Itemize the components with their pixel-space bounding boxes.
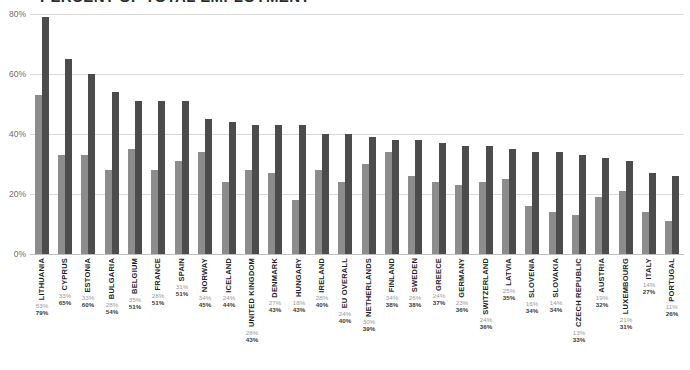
bar-group [474, 14, 497, 254]
bar-series-group [30, 14, 684, 254]
category-name: LITHUANIA [37, 258, 46, 300]
category-label-cell: 14%27%ITALY [637, 258, 660, 366]
category-label-cell: 33%65%CYPRUS [53, 258, 76, 366]
value-label-series-2: 79% [35, 309, 47, 316]
category-name: GREECE [434, 258, 443, 291]
category-name: PORTUGAL [668, 258, 677, 302]
category-name: SWITZERLAND [481, 258, 490, 315]
bar-series-1 [292, 200, 299, 254]
category-label-cell: 25%35%LATVIA [497, 258, 520, 366]
bar-series-1 [408, 176, 415, 254]
rotated-label: 35%51%BELGIUM [129, 258, 142, 310]
chart-container: PERCENT OF TOTAL EMPLOYMENT 0%20%40%60%8… [0, 0, 690, 370]
value-label-series-2: 37% [433, 300, 445, 307]
bar-series-1 [549, 212, 556, 254]
rotated-label: 34%45%NORWAY [199, 258, 212, 309]
bar-series-2 [626, 161, 633, 254]
rotated-label: 24%37%GREECE [432, 258, 445, 307]
value-label-pair: 33%65% [59, 293, 71, 306]
bar-group [591, 14, 614, 254]
bar-series-2 [42, 17, 49, 254]
rotated-label: 14%27%ITALY [642, 258, 655, 296]
rotated-label: 30%39%NETHERLANDS [362, 258, 375, 333]
value-label-pair: 28%54% [106, 302, 118, 315]
bar-series-1 [455, 185, 462, 254]
value-label-series-2: 38% [409, 301, 421, 308]
value-label-series-2: 43% [292, 306, 304, 313]
bar-series-2 [556, 152, 563, 254]
category-name: FINLAND [388, 258, 397, 292]
bar-series-1 [572, 215, 579, 254]
category-label-cell: 28%51%FRANCE [147, 258, 170, 366]
rotated-label: 53%79%LITHUANIA [35, 258, 48, 317]
bar-series-1 [338, 182, 345, 254]
category-label-cell: 27%43%DENMARK [264, 258, 287, 366]
y-axis-tick-label: 40% [9, 129, 26, 139]
rotated-label: 16%34%SLOVENIA [526, 258, 539, 314]
value-label-series-2: 65% [59, 300, 71, 307]
bar-group [30, 14, 53, 254]
value-label-series-2: 51% [176, 291, 188, 298]
y-axis-tick-label: 80% [9, 9, 26, 19]
bar-series-1 [268, 173, 275, 254]
value-label-pair: 21%31% [619, 317, 631, 330]
value-label-pair: 27%43% [269, 300, 281, 313]
plot-area: 0%20%40%60%80% [30, 14, 684, 254]
value-label-series-2: 54% [106, 308, 118, 315]
bar-group [170, 14, 193, 254]
bar-group [497, 14, 520, 254]
bar-series-1 [595, 197, 602, 254]
category-name: NETHERLANDS [364, 258, 373, 317]
value-label-series-2: 44% [222, 302, 234, 309]
bar-series-2 [439, 143, 446, 254]
bar-series-2 [112, 92, 119, 254]
category-label-cell: 30%39%NETHERLANDS [357, 258, 380, 366]
value-label-pair: 28%43% [246, 330, 258, 343]
category-label-cell: 34%38%FINLAND [380, 258, 403, 366]
category-label-cell: 24%37%GREECE [427, 258, 450, 366]
category-label-cell: 19%32%AUSTRIA [591, 258, 614, 366]
rotated-label: 24%40%EU OVERALL [339, 258, 352, 325]
bar-series-1 [362, 164, 369, 254]
value-label-pair: 14%34% [549, 300, 561, 313]
y-axis-tick-label: 60% [9, 69, 26, 79]
rotated-label: 23%36%GERMANY [456, 258, 469, 314]
rotated-label: 21%31%LUXEMBOURG [619, 258, 632, 331]
category-name: ESTONIA [84, 258, 93, 293]
value-label-pair: 53%79% [35, 303, 47, 316]
bar-series-2 [135, 101, 142, 254]
bar-group [334, 14, 357, 254]
category-label-cell: 35%51%BELGIUM [123, 258, 146, 366]
rotated-label: 14%34%SLOVAKIA [549, 258, 562, 314]
category-name: CZECH REPUBLIC [574, 258, 583, 327]
chart-title: PERCENT OF TOTAL EMPLOYMENT [40, 0, 310, 2]
bar-group [661, 14, 684, 254]
value-label-pair: 13%33% [573, 330, 585, 343]
bar-series-1 [245, 170, 252, 254]
value-label-pair: 35%51% [129, 297, 141, 310]
value-label-pair: 33%60% [82, 295, 94, 308]
bar-group [264, 14, 287, 254]
value-label-series-2: 38% [386, 302, 398, 309]
value-label-series-2: 39% [363, 326, 375, 333]
bar-series-1 [175, 161, 182, 254]
bar-series-2 [509, 149, 516, 254]
category-label-cell: 16%34%SLOVENIA [521, 258, 544, 366]
rotated-label: 11%26%PORTUGAL [666, 258, 679, 318]
value-label-pair: 26%38% [409, 295, 421, 308]
bar-group [567, 14, 590, 254]
value-label-pair: 11%26% [666, 304, 678, 317]
value-label-pair: 23%36% [456, 300, 468, 313]
category-label-cell: 24%40%EU OVERALL [334, 258, 357, 366]
value-label-series-2: 34% [549, 307, 561, 314]
rotated-label: 28%54%BULGARIA [105, 258, 118, 316]
value-label-series-2: 43% [246, 336, 258, 343]
category-label-cell: 28%43%UNITED KINGDOM [240, 258, 263, 366]
category-label-cell: 24%44%ICELAND [217, 258, 240, 366]
bar-series-1 [151, 170, 158, 254]
category-name: ITALY [645, 258, 654, 279]
value-label-series-2: 35% [503, 295, 515, 302]
y-axis-tick-label: 0% [14, 249, 26, 259]
value-label-series-2: 34% [526, 307, 538, 314]
category-label-cell: 21%31%LUXEMBOURG [614, 258, 637, 366]
